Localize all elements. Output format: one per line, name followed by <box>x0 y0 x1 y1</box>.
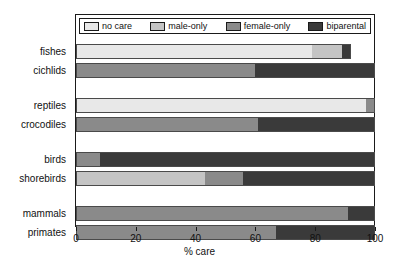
bar-track <box>76 63 375 78</box>
chart-legend: no caremale-onlyfemale-onlybiparental <box>79 18 371 34</box>
bars-area <box>76 44 375 220</box>
bar-track <box>76 171 375 186</box>
bar-row-shorebirds <box>76 171 375 186</box>
category-label-primates: primates <box>28 225 66 240</box>
bar-track <box>76 98 375 113</box>
bar-segment-mammals-biparental <box>348 206 375 221</box>
bar-segment-shorebirds-biparental <box>243 171 375 186</box>
category-label-fishes: fishes <box>40 44 66 59</box>
bar-segment-primates-female-only <box>76 225 276 240</box>
bar-segment-mammals-female-only <box>76 206 348 221</box>
bar-segment-shorebirds-female-only <box>205 171 244 186</box>
bar-segment-birds-biparental <box>100 152 375 167</box>
legend-label: biparental <box>326 22 366 31</box>
bar-segment-reptiles-female-only <box>366 98 375 113</box>
x-tick-mark <box>76 227 77 231</box>
x-tick-mark <box>196 227 197 231</box>
legend-swatch-icon <box>150 22 165 31</box>
x-tick-label: 0 <box>73 233 79 244</box>
legend-swatch-icon <box>308 22 323 31</box>
x-tick-label: 60 <box>250 233 261 244</box>
bar-segment-fishes-no-care <box>76 44 312 59</box>
bar-segment-crocodiles-biparental <box>258 117 375 132</box>
bar-segment-birds-female-only <box>76 152 100 167</box>
bar-segment-reptiles-no-care <box>76 98 366 113</box>
bar-segment-fishes-male-only <box>312 44 342 59</box>
bar-row-crocodiles <box>76 117 375 132</box>
bar-segment-cichlids-biparental <box>255 63 375 78</box>
x-tick-mark <box>255 227 256 231</box>
bar-row-cichlids <box>76 63 375 78</box>
bar-segment-crocodiles-female-only <box>76 117 258 132</box>
x-tick-label: 100 <box>367 233 384 244</box>
x-tick-label: 20 <box>130 233 141 244</box>
legend-swatch-icon <box>226 22 241 31</box>
bar-track <box>76 225 375 240</box>
bar-track <box>76 152 375 167</box>
bar-track <box>76 44 375 59</box>
bar-segment-fishes-biparental <box>342 44 351 59</box>
bar-row-primates <box>76 225 375 240</box>
x-tick-mark <box>375 227 376 231</box>
category-label-mammals: mammals <box>23 206 66 221</box>
legend-swatch-icon <box>84 22 99 31</box>
category-label-reptiles: reptiles <box>34 98 66 113</box>
x-tick-label: 40 <box>190 233 201 244</box>
legend-entry: male-only <box>150 22 207 31</box>
category-label-shorebirds: shorebirds <box>19 171 66 186</box>
legend-label: no care <box>102 22 132 31</box>
x-tick-mark <box>136 227 137 231</box>
x-tick-label: 80 <box>310 233 321 244</box>
bar-track <box>76 206 375 221</box>
x-axis-title: % care <box>0 246 399 257</box>
x-tick-mark <box>315 227 316 231</box>
legend-entry: no care <box>84 22 132 31</box>
bar-segment-shorebirds-male-only <box>76 171 205 186</box>
bar-row-reptiles <box>76 98 375 113</box>
bar-row-mammals <box>76 206 375 221</box>
bar-track <box>76 117 375 132</box>
bar-segment-primates-biparental <box>276 225 375 240</box>
category-label-cichlids: cichlids <box>33 63 66 78</box>
category-label-birds: birds <box>44 152 66 167</box>
legend-entry: biparental <box>308 22 366 31</box>
legend-label: male-only <box>168 22 207 31</box>
bar-segment-cichlids-female-only <box>76 63 255 78</box>
bar-row-birds <box>76 152 375 167</box>
category-axis-labels: fishescichlidsreptilescrocodilesbirdssho… <box>0 44 71 220</box>
legend-entry: female-only <box>226 22 291 31</box>
category-label-crocodiles: crocodiles <box>21 117 66 132</box>
bar-row-fishes <box>76 44 375 59</box>
stacked-bar-chart: no caremale-onlyfemale-onlybiparental fi… <box>0 0 399 267</box>
legend-label: female-only <box>244 22 291 31</box>
